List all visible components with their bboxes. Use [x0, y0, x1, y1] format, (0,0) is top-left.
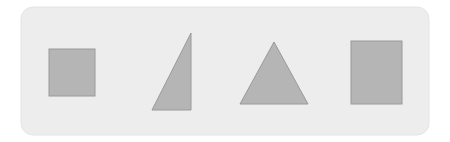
shape-square [49, 49, 95, 96]
shape-rectangle [351, 41, 402, 104]
shapes-canvas [0, 0, 450, 142]
shapes-figure [0, 0, 450, 142]
